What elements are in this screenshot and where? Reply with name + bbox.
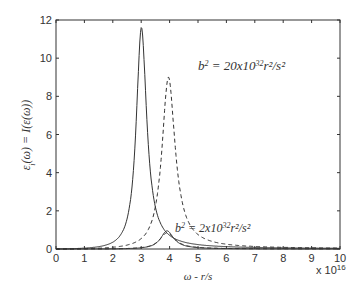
x-tick-label: 1 (81, 252, 87, 264)
y-axis-label: εi(ω) = I(ε(ω)) (19, 100, 37, 171)
y-tick-label: 12 (40, 14, 52, 26)
y-tick-label: 0 (46, 243, 52, 255)
annotation-b2-2: b2 = 2x1032r²/s² (175, 221, 251, 236)
x-axis-label: ω - r/s (184, 270, 213, 282)
x-tick-label: 0 (53, 252, 59, 264)
y-tick-label: 8 (46, 90, 52, 102)
x-tick-label: 3 (138, 252, 144, 264)
x-tick-label: 6 (223, 252, 229, 264)
x-tick-label: 5 (195, 252, 201, 264)
x-tick-label: 9 (309, 252, 315, 264)
chart: 012345678910024681012 b2 = 20x1032r²/s² … (0, 0, 363, 292)
y-tick-label: 10 (40, 52, 52, 64)
x-tick-label: 2 (110, 252, 116, 264)
plot-area (56, 20, 340, 249)
y-tick-label: 2 (46, 205, 52, 217)
x-tick-label: 4 (167, 252, 173, 264)
annotation-b2-20: b2 = 20x1032r²/s² (198, 58, 286, 73)
y-tick-label: 4 (46, 167, 52, 179)
x-multiplier: x 1016 (316, 263, 346, 277)
y-tick-label: 6 (46, 129, 52, 141)
x-tick-label: 8 (280, 252, 286, 264)
x-tick-label: 7 (252, 252, 258, 264)
